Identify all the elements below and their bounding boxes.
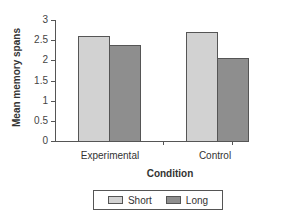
legend-label-short: Short [128,195,152,206]
bar-control-long [217,58,249,142]
y-tick-label-0: 0 [28,135,48,146]
legend-swatch-short [108,196,123,204]
category-label-control: Control [180,150,250,161]
y-tick [51,81,55,82]
y-tick-label-2: 2 [28,54,48,65]
y-tick [51,101,55,102]
x-axis-label: Condition [120,168,220,179]
y-tick [51,20,55,21]
y-axis-label: Mean memory spans [11,18,22,138]
legend-swatch-long [166,196,181,204]
y-tick-label-1: 1 [28,95,48,106]
bar-control-short [186,32,218,142]
y-tick [51,121,55,122]
y-tick [51,60,55,61]
legend: Short Long [93,190,223,210]
legend-item-short: Short [108,195,152,206]
y-tick-label-2.5: 2.5 [28,34,48,45]
y-axis-line [55,20,56,141]
legend-item-long: Long [166,195,208,206]
y-tick-label-0.5: 0.5 [28,115,48,126]
y-tick-label-3: 3 [28,14,48,25]
category-label-experimental: Experimental [70,150,150,161]
y-tick-label-1.5: 1.5 [28,75,48,86]
legend-label-long: Long [186,195,208,206]
y-tick [51,40,55,41]
bar-experimental-long [109,45,141,142]
x-tick [163,141,164,145]
bar-experimental-short [78,36,110,142]
